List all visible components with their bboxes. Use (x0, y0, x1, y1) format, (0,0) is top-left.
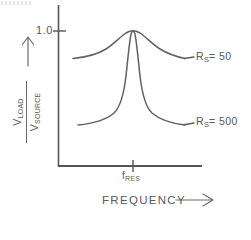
series-label-rs-50: RS= 50 (196, 50, 231, 64)
y-axis-denominator-main: V (28, 124, 40, 131)
x-axis-title: FREQUENCY (102, 194, 186, 206)
y-axis-fraction-bar (26, 81, 27, 143)
series-label-rs-50-value: = 50 (209, 50, 231, 62)
y-axis-numerator-main: V (11, 118, 23, 125)
y-tick-label-1-0: 1.0 (36, 24, 53, 36)
leader-line-rs-50 (184, 57, 194, 59)
y-axis-numerator: VLOAD (12, 98, 24, 125)
y-axis-numerator-sub: LOAD (17, 98, 24, 118)
fres-sub: RES (125, 175, 140, 182)
series-label-rs-50-main: R (196, 50, 204, 62)
series-label-rs-500-main: R (196, 115, 204, 127)
y-axis-denominator: VSOURCE (29, 93, 41, 132)
x-tick-label-fres: fRES (122, 170, 140, 182)
y-axis-fraction: VLOAD VSOURCE (12, 81, 41, 143)
y-axis-title: VLOAD VSOURCE (9, 57, 43, 167)
leader-line-rs-500 (184, 123, 194, 125)
series-label-rs-500: RS= 500 (196, 115, 238, 129)
curve-rs-500 (78, 31, 185, 125)
series-label-rs-500-value: = 500 (209, 115, 238, 127)
y-axis-denominator-sub: SOURCE (34, 93, 41, 124)
